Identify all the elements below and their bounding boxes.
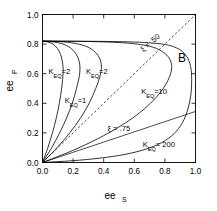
x-tick-label-2: 0.4: [98, 167, 110, 176]
curve-label-value-3: =10: [154, 87, 167, 96]
curve-label-4: KEQ= 200: [143, 140, 175, 152]
curve-label-value-2: =2: [99, 67, 108, 76]
x-tick-label-3: 0.6: [129, 167, 141, 176]
chart-figure: 0.00.20.40.60.81.0 0.00.20.40.60.81.0 KE…: [0, 0, 217, 211]
curve-label-value-4: = 200: [156, 140, 175, 149]
x-tick-label-0: 0.0: [37, 167, 49, 176]
x-tick-label-1: 0.2: [67, 167, 79, 176]
y-tick-label-2: 0.4: [27, 99, 39, 108]
x-tick-labels: 0.00.20.40.60.81.0: [37, 167, 202, 176]
x-tick-label-5: 1.0: [190, 167, 202, 176]
x-tick-label-4: 0.8: [159, 167, 171, 176]
curve-label-1: KEQ=1: [65, 96, 87, 108]
curve-label-0: KEQ=2: [49, 67, 71, 79]
y-tick-label-3: 0.6: [27, 70, 39, 79]
y-tick-label-0: 0.0: [27, 159, 39, 168]
y-tick-label-4: 0.8: [27, 40, 39, 49]
y-tick-labels: 0.00.20.40.60.81.0: [27, 11, 39, 168]
y-axis-title-subscript: P: [11, 69, 18, 74]
xi-line-xi-075: [43, 111, 196, 162]
curve-label-3: KEQ=10: [141, 87, 167, 99]
curve-label-value-1: =1: [78, 96, 87, 105]
xi-label-xi-075: ξ = .75: [108, 124, 131, 133]
x-axis-title-subscript: S: [122, 196, 127, 203]
x-axis-title: ee: [104, 190, 116, 201]
curve-label-value-0: =2: [62, 67, 71, 76]
xi-label-xi-050: ξ = .50: [139, 32, 162, 54]
ee-s-vs-ee-p-plot: 0.00.20.40.60.81.0 0.00.20.40.60.81.0 KE…: [0, 0, 217, 211]
y-axis-title: ee: [4, 80, 15, 92]
curve-label-2: KEQ=2: [86, 67, 108, 79]
panel-label: B: [178, 51, 186, 65]
y-tick-label-5: 1.0: [27, 11, 39, 20]
y-tick-label-1: 0.2: [27, 129, 39, 138]
